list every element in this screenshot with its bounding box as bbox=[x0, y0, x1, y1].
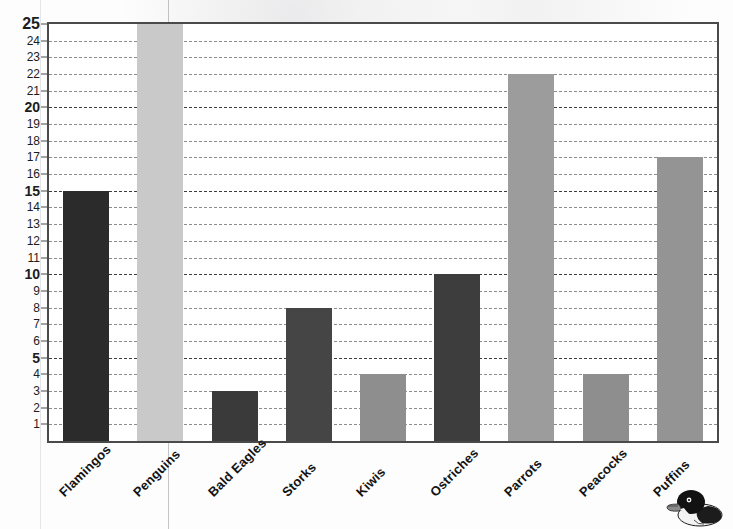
x-axis-labels: FlamingosPenguinsBald EaglesStorksKiwisO… bbox=[0, 443, 733, 529]
x-axis-label-kiwis: Kiwis bbox=[353, 464, 388, 499]
x-axis-label-peacocks: Peacocks bbox=[576, 445, 630, 499]
puffin-illustration bbox=[664, 487, 726, 527]
y-tick-label-12: 12 bbox=[27, 235, 40, 247]
bar-storks bbox=[286, 308, 332, 441]
y-tick-label-13: 13 bbox=[27, 218, 40, 230]
y-tick-label-19: 19 bbox=[27, 118, 40, 130]
x-axis-label-parrots: Parrots bbox=[501, 456, 545, 500]
y-tick-label-14: 14 bbox=[27, 201, 40, 213]
y-tick-label-10: 10 bbox=[24, 267, 40, 281]
x-axis-label-storks: Storks bbox=[279, 460, 319, 500]
bar-flamingos bbox=[63, 191, 109, 441]
y-tick-label-9: 9 bbox=[33, 285, 40, 297]
bars-group bbox=[49, 24, 717, 441]
y-tick-label-15: 15 bbox=[24, 184, 40, 198]
y-tick-label-2: 2 bbox=[33, 402, 40, 414]
y-tick-label-6: 6 bbox=[33, 335, 40, 347]
y-tick-label-8: 8 bbox=[33, 302, 40, 314]
x-axis-label-penguins: Penguins bbox=[130, 446, 183, 499]
y-tick-label-21: 21 bbox=[27, 85, 40, 97]
y-tick-label-17: 17 bbox=[27, 151, 40, 163]
y-tick-label-1: 1 bbox=[33, 418, 40, 430]
bar-puffins bbox=[657, 157, 703, 441]
y-tick-label-22: 22 bbox=[27, 68, 40, 80]
bar-bald-eagles bbox=[212, 391, 258, 441]
bar-penguins bbox=[137, 24, 183, 441]
y-tick-label-23: 23 bbox=[27, 51, 40, 63]
y-tick-label-16: 16 bbox=[27, 168, 40, 180]
y-tick-label-3: 3 bbox=[33, 385, 40, 397]
y-tick-label-11: 11 bbox=[28, 252, 40, 264]
y-tick-label-4: 4 bbox=[33, 368, 40, 380]
y-tick-label-20: 20 bbox=[24, 100, 40, 114]
x-axis-label-bald-eagles: Bald Eagles bbox=[205, 435, 269, 499]
y-tick-label-24: 24 bbox=[27, 35, 40, 47]
bar-kiwis bbox=[360, 374, 406, 441]
bar-ostriches bbox=[434, 274, 480, 441]
bar-parrots bbox=[508, 74, 554, 441]
y-axis: 1234567891011121314151617181920212223242… bbox=[0, 22, 45, 443]
y-tick-label-7: 7 bbox=[33, 318, 40, 330]
plot-area bbox=[47, 22, 719, 443]
y-tick-label-25: 25 bbox=[22, 16, 40, 32]
x-axis-label-ostriches: Ostriches bbox=[427, 445, 481, 499]
bird-population-bar-chart: 1234567891011121314151617181920212223242… bbox=[0, 0, 733, 529]
x-axis-label-flamingos: Flamingos bbox=[56, 442, 114, 500]
y-tick-label-18: 18 bbox=[27, 135, 40, 147]
y-tick-label-5: 5 bbox=[32, 351, 40, 365]
bar-peacocks bbox=[583, 374, 629, 441]
